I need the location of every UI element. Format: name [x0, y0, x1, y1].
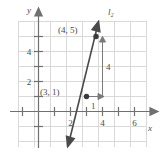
- slope-triangle: [87, 37, 106, 100]
- graph-figure: y x l₂ 2 4 6 2 4 (4, 5) (3, 1) 1 4: [0, 0, 161, 154]
- x-tick-label-6: 6: [132, 118, 137, 128]
- y-tick-label-2: 2: [27, 77, 32, 87]
- y-axis-arrowhead: [35, 8, 42, 16]
- x-tick-label-2: 2: [68, 118, 73, 128]
- run-arrowhead: [98, 94, 104, 100]
- run-label: 1: [91, 101, 96, 111]
- point-label-3-1: (3, 1): [40, 87, 60, 97]
- rise-arrowhead: [100, 37, 106, 43]
- coordinate-plane-svg: y x l₂ 2 4 6 2 4 (4, 5) (3, 1) 1 4: [0, 0, 161, 154]
- y-tick-label-4: 4: [27, 47, 32, 57]
- point-3-1: [84, 94, 89, 99]
- x-axis-arrowhead: [150, 108, 158, 115]
- x-tick-label-4: 4: [100, 118, 105, 128]
- line-l2-segment: [70, 28, 98, 140]
- line-l2-label: l₂: [108, 7, 114, 17]
- line-l2-arrowhead-top: [92, 22, 100, 32]
- point-4-5: [93, 34, 98, 39]
- rise-label: 4: [106, 62, 111, 72]
- x-axis-label: x: [147, 123, 152, 133]
- point-label-4-5: (4, 5): [58, 25, 78, 35]
- y-axis-label: y: [26, 5, 31, 15]
